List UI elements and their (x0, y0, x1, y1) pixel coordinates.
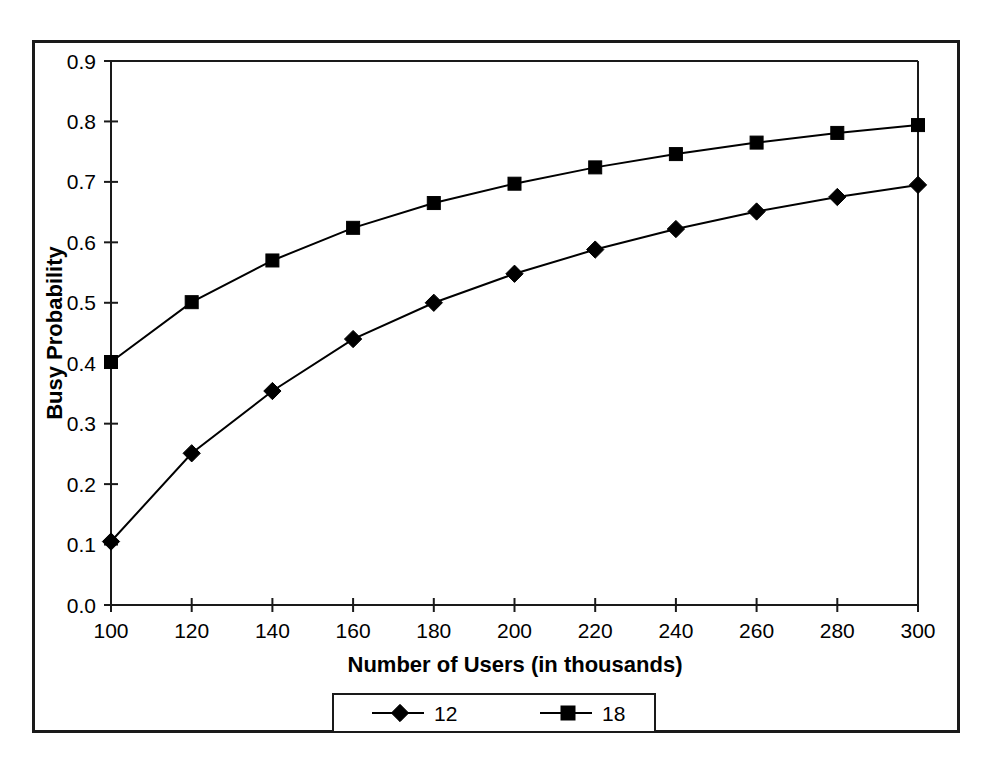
chart-legend: 1218 (333, 694, 655, 732)
series-line-12 (111, 185, 918, 542)
data-point-12-160 (344, 330, 361, 347)
y-tick-label: 0.9 (67, 50, 96, 73)
x-tick-label: 220 (578, 619, 613, 642)
y-axis-title: Busy Probability (42, 245, 67, 419)
x-axis-title: Number of Users (in thousands) (348, 652, 683, 677)
x-tick-label: 240 (658, 619, 693, 642)
x-tick-label: 120 (174, 619, 209, 642)
y-tick-label: 0.4 (67, 352, 97, 375)
x-tick-label: 180 (416, 619, 451, 642)
data-point-18-100 (105, 356, 118, 369)
x-tick-label: 160 (336, 619, 371, 642)
data-point-18-220 (589, 161, 602, 174)
series-line-18 (111, 125, 918, 362)
data-point-12-140 (264, 382, 281, 399)
data-point-12-280 (829, 188, 846, 205)
y-tick-label: 0.1 (67, 533, 96, 556)
data-point-12-260 (748, 203, 765, 220)
x-tick-label: 280 (820, 619, 855, 642)
x-tick-label: 260 (739, 619, 774, 642)
y-tick-label: 0.0 (67, 594, 96, 617)
data-point-18-280 (831, 126, 844, 139)
square-marker-icon (561, 706, 575, 720)
figure-canvas: 0.00.10.20.30.40.50.60.70.80.9 100120140… (0, 0, 990, 767)
legend-label-18: 18 (602, 702, 625, 725)
data-series-layer (102, 119, 926, 551)
legend-label-12: 12 (434, 702, 457, 725)
x-tick-label: 300 (900, 619, 935, 642)
x-tick-label: 200 (497, 619, 532, 642)
data-point-18-240 (669, 148, 682, 161)
x-tick-label: 100 (93, 619, 128, 642)
data-point-18-120 (185, 296, 198, 309)
data-point-12-200 (506, 265, 523, 282)
y-tick-label: 0.6 (67, 231, 96, 254)
y-tick-label: 0.5 (67, 291, 96, 314)
data-point-18-260 (750, 136, 763, 149)
y-tick-label: 0.7 (67, 170, 96, 193)
data-point-12-300 (909, 176, 926, 193)
data-point-18-200 (508, 177, 521, 190)
data-point-18-160 (347, 221, 360, 234)
y-tick-label: 0.3 (67, 412, 96, 435)
data-point-12-180 (425, 294, 442, 311)
x-tick-label: 140 (255, 619, 290, 642)
data-point-18-180 (427, 197, 440, 210)
data-point-12-240 (667, 220, 684, 237)
data-point-18-140 (266, 254, 279, 267)
y-tick-label: 0.2 (67, 473, 96, 496)
chart-plot: 0.00.10.20.30.40.50.60.70.80.9 100120140… (0, 0, 990, 767)
data-point-18-300 (912, 119, 925, 132)
y-tick-label: 0.8 (67, 110, 96, 133)
data-point-12-220 (587, 241, 604, 258)
plot-axes (111, 61, 918, 605)
